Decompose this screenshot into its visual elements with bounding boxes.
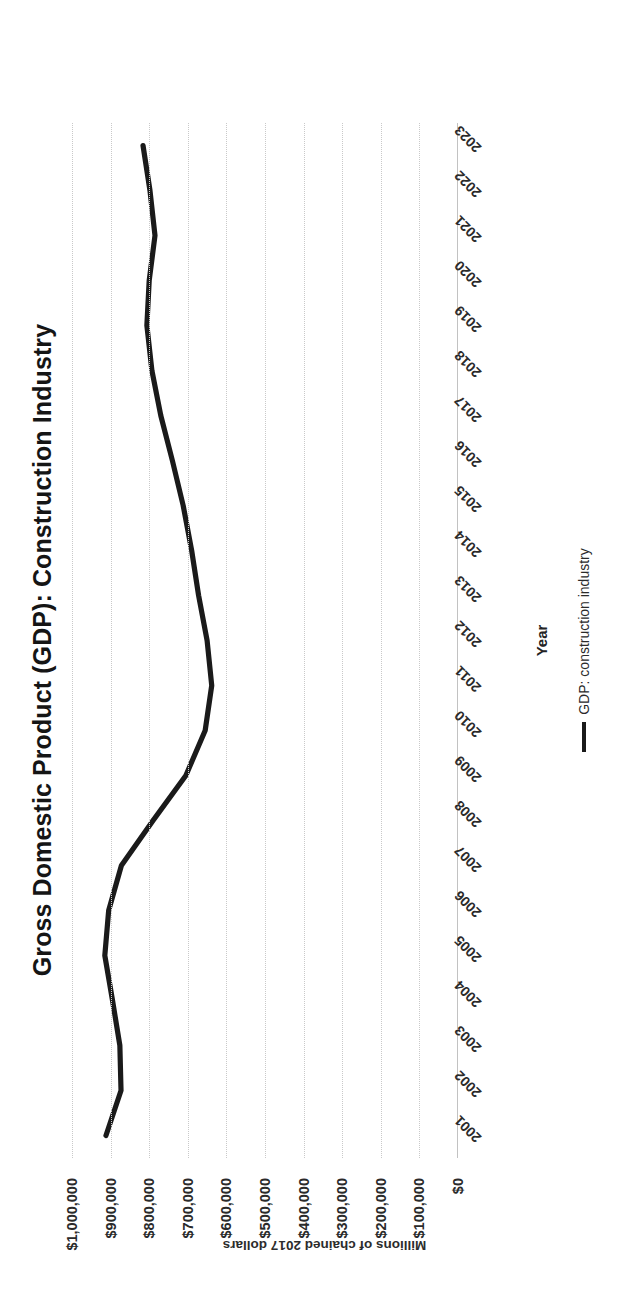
y-axis-tick-label: $1,000,000 bbox=[64, 1178, 80, 1251]
y-axis-tick-label: $600,000 bbox=[218, 1178, 234, 1238]
gridline bbox=[342, 123, 343, 1158]
y-axis-tick-label: $0 bbox=[450, 1178, 466, 1194]
plot-area bbox=[72, 123, 458, 1158]
y-axis-tick-label: $500,000 bbox=[257, 1178, 273, 1238]
legend-item-label: GDP: construction industry bbox=[576, 548, 592, 715]
rotated-chart-wrapper: Gross Domestic Product (GDP): Constructi… bbox=[0, 0, 634, 1300]
scanned-page: Gross Domestic Product (GDP): Constructi… bbox=[0, 0, 634, 1300]
y-axis-tick-labels: Millions of chained 2017 dollars $1,000,… bbox=[72, 1168, 458, 1300]
y-axis-tick-label: $300,000 bbox=[334, 1178, 350, 1238]
legend-swatch-icon bbox=[582, 722, 586, 752]
y-axis-tick-label: $800,000 bbox=[141, 1178, 157, 1238]
x-axis-tick-labels: 2001200220032004200520062007200820092010… bbox=[462, 123, 522, 1158]
y-axis-tick-label: $900,000 bbox=[103, 1178, 119, 1238]
gridline bbox=[226, 123, 227, 1158]
y-axis-tick-label: $400,000 bbox=[296, 1178, 312, 1238]
line-chart: Gross Domestic Product (GDP): Constructi… bbox=[0, 0, 634, 1300]
y-axis-title: Millions of chained 2017 dollars bbox=[132, 1238, 518, 1253]
gridline bbox=[419, 123, 420, 1158]
gridline bbox=[188, 123, 189, 1158]
gridline bbox=[111, 123, 112, 1158]
gridline bbox=[381, 123, 382, 1158]
y-axis-tick-label: $700,000 bbox=[180, 1178, 196, 1238]
chart-title: Gross Domestic Product (GDP): Constructi… bbox=[28, 0, 57, 1300]
y-axis-tick-label: $100,000 bbox=[411, 1178, 427, 1238]
chart-legend: GDP: construction industry bbox=[576, 0, 592, 1300]
y-axis-tick-label: $200,000 bbox=[373, 1178, 389, 1238]
gridline bbox=[72, 123, 73, 1158]
gridline bbox=[265, 123, 266, 1158]
gridline bbox=[149, 123, 150, 1158]
gridline bbox=[304, 123, 305, 1158]
x-axis-title: Year bbox=[533, 123, 550, 1158]
